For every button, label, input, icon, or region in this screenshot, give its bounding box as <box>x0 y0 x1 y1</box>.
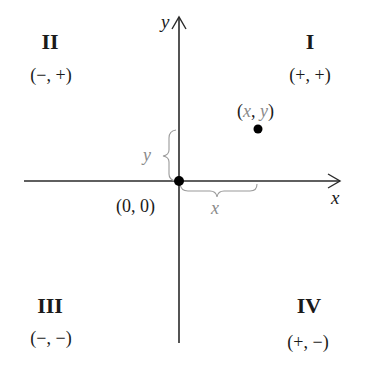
vertical-brace-icon <box>163 130 176 181</box>
quadrant-iii-numeral: III <box>37 293 63 318</box>
quadrant-i-numeral: I <box>306 29 315 54</box>
point-label-close: ) <box>268 101 274 122</box>
point-label: (x, y) <box>237 101 274 122</box>
point-label-sep: , <box>251 101 260 121</box>
origin-label: (0, 0) <box>116 196 155 217</box>
point-xy <box>254 125 263 134</box>
origin-point <box>174 176 184 186</box>
quadrant-iv-numeral: IV <box>297 293 322 318</box>
point-label-x: x <box>242 101 251 121</box>
quadrant-ii-numeral: II <box>41 29 58 54</box>
horizontal-brace-label: x <box>210 198 219 218</box>
point-label-y: y <box>258 101 268 121</box>
quadrant-i-signs: (+, +) <box>289 65 330 86</box>
y-axis-label: y <box>159 11 170 32</box>
quadrant-iv-signs: (+, −) <box>287 332 328 353</box>
quadrant-iii-signs: (−, −) <box>30 328 71 349</box>
x-axis-label: x <box>330 187 340 208</box>
quadrant-ii-signs: (−, +) <box>30 65 71 86</box>
vertical-brace-label: y <box>141 145 151 165</box>
coordinate-plane: y x (0, 0) y x (x, y) I (+, +) II (−, +)… <box>0 0 374 377</box>
horizontal-brace-icon <box>180 184 257 197</box>
